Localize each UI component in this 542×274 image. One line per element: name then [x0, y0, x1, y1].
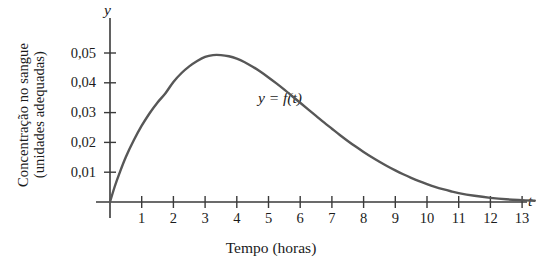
y-tick-label: 0,01: [50, 165, 96, 180]
y-tick-label: 0,04: [50, 75, 96, 90]
x-tick-label: 1: [130, 211, 154, 226]
x-tick-label: 8: [352, 211, 376, 226]
concentration-curve: [110, 55, 535, 202]
chart-figure: Concentração no sangue (unidades adequad…: [0, 0, 542, 274]
y-tick-label: 0,05: [50, 46, 96, 61]
x-tick-label: 5: [257, 211, 281, 226]
x-tick-label: 9: [383, 211, 407, 226]
x-tick-label: 13: [510, 211, 534, 226]
x-tick-label: 7: [320, 211, 344, 226]
axes: [96, 18, 527, 218]
x-tick-label: 6: [288, 211, 312, 226]
x-tick-label: 10: [415, 211, 439, 226]
x-tick-label: 2: [161, 211, 185, 226]
x-tick-label: 3: [193, 211, 217, 226]
x-tick-label: 12: [478, 211, 502, 226]
y-tick-label: 0,03: [50, 105, 96, 120]
y-tick-label: 0,02: [50, 135, 96, 150]
x-tick-label: 4: [225, 211, 249, 226]
x-tick-label: 11: [447, 211, 471, 226]
